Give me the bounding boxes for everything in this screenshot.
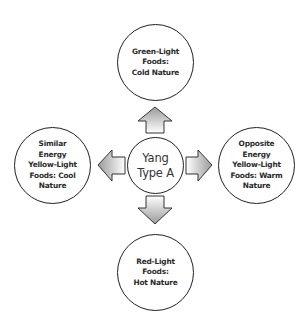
node-similar-energy-yellow-light: Similar Energy Yellow-Light Foods: Cool … [14, 127, 91, 204]
node-right-label: Opposite Energy Yellow-Light Foods: Warm… [230, 139, 282, 192]
node-red-light-foods: Red-Light Foods: Hot Nature [117, 234, 194, 311]
arrow-right-icon [186, 150, 212, 181]
arrow-up-icon [138, 107, 172, 133]
node-bottom-label: Red-Light Foods: Hot Nature [134, 257, 178, 289]
center-node-yang-type-a: Yang Type A [127, 137, 184, 194]
node-opposite-energy-yellow-light: Opposite Energy Yellow-Light Foods: Warm… [218, 127, 295, 204]
node-left-label: Similar Energy Yellow-Light Foods: Cool … [28, 139, 77, 192]
center-node-label: Yang Type A [137, 151, 174, 181]
node-green-light-foods: Green-Light Foods: Cold Nature [117, 24, 194, 101]
arrow-left-icon [98, 150, 125, 181]
arrow-down-icon [138, 196, 172, 224]
node-top-label: Green-Light Foods: Cold Nature [132, 47, 179, 79]
